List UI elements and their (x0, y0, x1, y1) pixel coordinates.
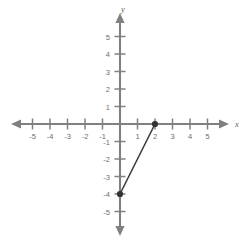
x-tick-label--4: -4 (47, 132, 54, 141)
endpoint-dot-upper (152, 121, 158, 127)
x-tick-label--3: -3 (64, 132, 71, 141)
y-axis-top-arrowhead (115, 13, 124, 23)
y-tick-label-5: 5 (106, 33, 110, 42)
coordinate-graph: -5 -4 -3 -2 -1 1 2 3 4 5 5 4 3 2 1 -1 -2… (0, 0, 248, 243)
y-axis-label: y (120, 4, 125, 14)
y-tick-label-2: 2 (106, 85, 110, 94)
x-tick-label-2: 2 (153, 132, 157, 141)
coordinate-plane-figure: -5 -4 -3 -2 -1 1 2 3 4 5 5 4 3 2 1 -1 -2… (0, 0, 248, 243)
y-tick-label-1: 1 (106, 103, 110, 112)
x-tick-label-5: 5 (205, 132, 209, 141)
x-axis-right-arrowhead (219, 119, 229, 128)
y-tick-label-4: 4 (106, 50, 110, 59)
x-axis-label: x (234, 119, 239, 129)
y-tick-label--4: -4 (103, 190, 110, 199)
x-tick-label-1: 1 (135, 132, 139, 141)
y-tick-label--1: -1 (103, 138, 110, 147)
x-tick-label--2: -2 (82, 132, 89, 141)
x-tick-label-3: 3 (170, 132, 174, 141)
y-tick-label--5: -5 (103, 208, 110, 217)
y-tick-label-3: 3 (106, 68, 110, 77)
x-axis-left-arrowhead (11, 119, 21, 128)
x-tick-label--5: -5 (29, 132, 36, 141)
y-tick-label--2: -2 (103, 155, 110, 164)
endpoint-dot-lower (117, 191, 123, 197)
y-axis-bottom-arrowhead (115, 226, 124, 236)
x-tick-label-4: 4 (188, 132, 192, 141)
y-tick-label--3: -3 (103, 173, 110, 182)
